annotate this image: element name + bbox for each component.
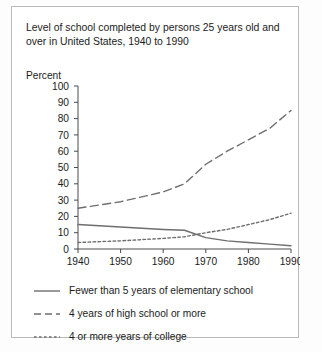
chart-card: Level of school completed by persons 25 … (11, 6, 299, 338)
y-tick-label: 10 (58, 227, 70, 238)
legend-item: 4 years of high school or more (34, 302, 284, 325)
y-axis-tick-labels: 0102030405060708090100 (52, 81, 69, 255)
y-tick-label: 0 (63, 244, 69, 255)
x-tick-label: 1980 (237, 256, 260, 267)
legend-swatch-solid-icon (34, 286, 60, 296)
series-line (78, 225, 291, 246)
legend-item: 4 or more years of college (34, 325, 284, 348)
x-tick-label: 1970 (194, 256, 217, 267)
series-line (78, 213, 291, 242)
y-tick-label: 70 (58, 130, 70, 141)
x-axis-ticks (78, 249, 291, 253)
x-tick-label: 1940 (67, 256, 90, 267)
legend-label: 4 years of high school or more (69, 308, 206, 319)
y-tick-label: 30 (58, 195, 70, 206)
y-tick-label: 60 (58, 146, 70, 157)
y-tick-label: 90 (58, 97, 70, 108)
series-lines (78, 110, 291, 245)
legend-label: Fewer than 5 years of elementary school (69, 285, 253, 296)
legend-label: 4 or more years of college (69, 331, 187, 342)
y-tick-label: 40 (58, 178, 70, 189)
series-line (78, 110, 291, 208)
x-tick-label: 1960 (152, 256, 175, 267)
legend-item: Fewer than 5 years of elementary school (34, 279, 284, 302)
y-tick-label: 20 (58, 211, 70, 222)
x-axis-tick-labels: 194019501960197019801990 (67, 256, 300, 267)
x-tick-label: 1950 (109, 256, 132, 267)
y-tick-label: 80 (58, 113, 70, 124)
x-tick-label: 1990 (280, 256, 300, 267)
legend-swatch-dashed-icon (34, 309, 60, 319)
chart-legend: Fewer than 5 years of elementary school … (34, 279, 284, 348)
y-tick-label: 100 (52, 81, 69, 92)
y-tick-label: 50 (58, 162, 70, 173)
legend-swatch-dotted-icon (34, 332, 60, 342)
